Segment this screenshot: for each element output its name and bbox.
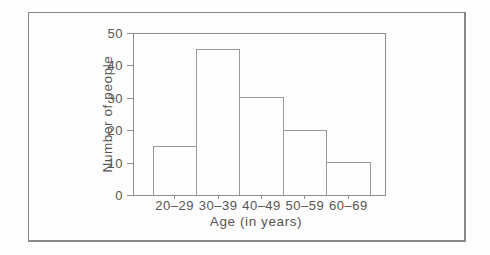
y-axis-title: Number of people [100, 56, 115, 173]
histogram-bar [153, 146, 196, 195]
histogram-bar [240, 98, 283, 195]
histogram-bar [327, 163, 370, 195]
scanned-figure: 0102030405020–2930–3940–4950–5960–69 Num… [0, 0, 490, 255]
x-tick-label: 30–39 [199, 198, 238, 213]
histogram-bar [196, 49, 239, 195]
y-tick-label: 0 [115, 188, 123, 203]
y-tick-label: 50 [108, 26, 123, 41]
x-tick-label: 60–69 [329, 198, 368, 213]
x-tick-label: 20–29 [155, 198, 194, 213]
x-axis-title: Age (in years) [210, 214, 302, 229]
x-tick-label: 40–49 [242, 198, 281, 213]
x-tick-label: 50–59 [286, 198, 325, 213]
histogram-bar [283, 130, 326, 195]
